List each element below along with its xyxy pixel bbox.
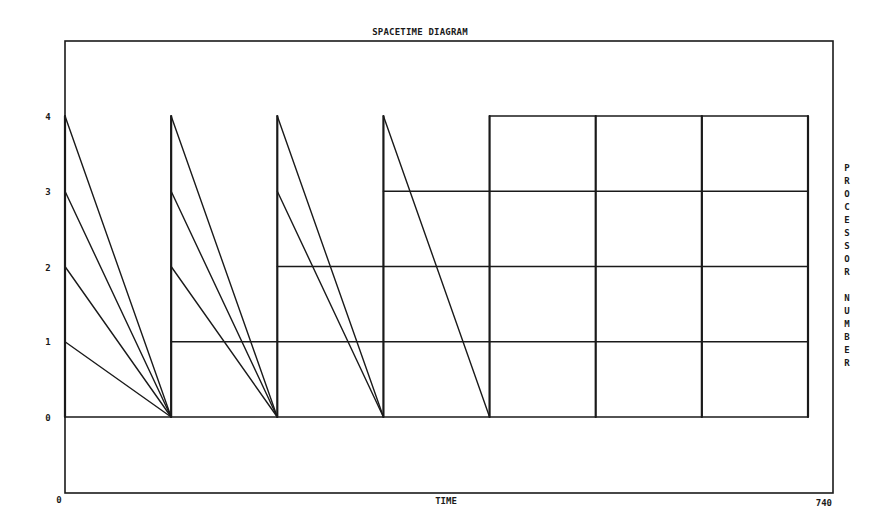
message-line bbox=[65, 191, 171, 417]
y-tick-1: 1 bbox=[45, 337, 50, 347]
chart-title: SPACETIME DIAGRAM bbox=[372, 27, 468, 37]
svg-text:R: R bbox=[844, 358, 850, 368]
message-line bbox=[65, 267, 171, 418]
svg-text:P: P bbox=[844, 163, 850, 173]
svg-text:E: E bbox=[844, 215, 849, 225]
svg-text:O: O bbox=[844, 189, 850, 199]
x-axis-label: TIME bbox=[435, 496, 457, 506]
spacetime-chart: SPACETIME DIAGRAM 4 3 2 1 0 0 740 TIME P… bbox=[0, 0, 892, 531]
message-line bbox=[171, 191, 277, 417]
svg-text:C: C bbox=[844, 202, 849, 212]
svg-text:B: B bbox=[844, 332, 850, 342]
svg-text:S: S bbox=[844, 241, 849, 251]
message-line bbox=[65, 342, 171, 417]
svg-text:M: M bbox=[844, 319, 850, 329]
y-tick-2: 2 bbox=[45, 263, 50, 273]
y-tick-0: 0 bbox=[45, 413, 50, 423]
x-tick-min: 0 bbox=[56, 495, 61, 505]
y-tick-4: 4 bbox=[45, 112, 51, 122]
svg-text:R: R bbox=[844, 176, 850, 186]
plot-series bbox=[65, 116, 808, 417]
svg-text:O: O bbox=[844, 254, 850, 264]
svg-text:E: E bbox=[844, 345, 849, 355]
svg-text:N: N bbox=[844, 293, 849, 303]
y-axis-label: P R O C E S S O R N U M B E R bbox=[844, 163, 850, 368]
message-line bbox=[171, 116, 277, 417]
svg-text:R: R bbox=[844, 267, 850, 277]
x-tick-max: 740 bbox=[816, 498, 832, 508]
svg-text:U: U bbox=[844, 306, 849, 316]
message-line bbox=[65, 116, 171, 417]
svg-text:S: S bbox=[844, 228, 849, 238]
message-line bbox=[277, 191, 383, 417]
y-tick-3: 3 bbox=[45, 187, 50, 197]
